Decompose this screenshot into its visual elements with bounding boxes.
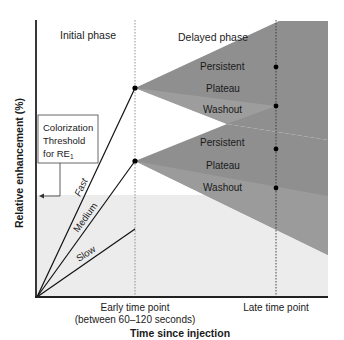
fast-label: Fast	[72, 176, 90, 198]
upper-washout-label: Washout	[203, 104, 242, 115]
y-axis-label: Relative enhancement (%)	[13, 98, 25, 228]
delayed-phase-label: Delayed phase	[178, 31, 248, 43]
early-dot-medium	[132, 158, 137, 163]
late-time-point-label: Late time point	[243, 302, 309, 313]
threshold-line-3: for RE1	[43, 148, 74, 160]
x-axis-label: Time since injection	[130, 327, 230, 339]
lower-washout-label: Washout	[203, 182, 242, 193]
late-dot-upper-persistent	[274, 65, 279, 70]
late-dot-upper-washout	[274, 104, 279, 109]
threshold-line-2: Threshold	[43, 135, 85, 146]
upper-plateau-label: Plateau	[206, 83, 240, 94]
lower-persistent-label: Persistent	[200, 137, 245, 148]
initial-phase-label: Initial phase	[60, 29, 116, 41]
threshold-arrow-line	[42, 163, 60, 196]
early-dot-fast	[132, 85, 137, 90]
lower-plateau-label: Plateau	[206, 160, 240, 171]
upper-persistent-label: Persistent	[200, 61, 245, 72]
enhancement-kinetics-diagram: Initial phase Delayed phase Persistent P…	[0, 0, 344, 340]
threshold-line-1: Colorization	[43, 122, 93, 133]
early-time-point-label: Early time point	[101, 302, 170, 313]
late-dot-lower-washout	[274, 186, 279, 191]
late-dot-lower-persistent	[274, 147, 279, 152]
early-time-point-sub-label: (between 60–120 seconds)	[75, 314, 196, 325]
